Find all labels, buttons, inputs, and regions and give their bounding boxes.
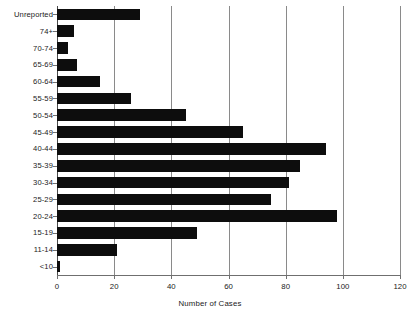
bar bbox=[57, 76, 100, 88]
bars bbox=[57, 6, 400, 275]
gridline bbox=[400, 6, 401, 275]
x-axis-tick bbox=[343, 275, 344, 279]
x-axis-tick-label: 0 bbox=[55, 282, 59, 291]
bar bbox=[57, 177, 289, 189]
y-axis-tick-label: 35-39 bbox=[0, 161, 53, 170]
y-axis-tick bbox=[53, 132, 57, 133]
y-axis-tick-label: 25-29 bbox=[0, 195, 53, 204]
y-axis-tick-label: 74+ bbox=[0, 27, 53, 36]
y-axis-tick-label: 20-24 bbox=[0, 212, 53, 221]
y-axis-tick-label: 15-19 bbox=[0, 228, 53, 237]
x-axis-tick bbox=[229, 275, 230, 279]
y-axis-tick bbox=[53, 14, 57, 15]
y-axis-tick bbox=[53, 149, 57, 150]
y-axis-tick-label: Unreported bbox=[0, 10, 53, 19]
y-axis-tick bbox=[53, 65, 57, 66]
x-axis-tick-label: 40 bbox=[167, 282, 176, 291]
y-axis-tick-label: 45-49 bbox=[0, 128, 53, 137]
x-axis-tick-label: 20 bbox=[110, 282, 119, 291]
bar bbox=[57, 261, 60, 273]
y-axis-tick-label: 11-14 bbox=[0, 245, 53, 254]
bar bbox=[57, 244, 117, 256]
x-axis-tick bbox=[171, 275, 172, 279]
x-axis-tick-label: 80 bbox=[281, 282, 290, 291]
x-axis-tick bbox=[114, 275, 115, 279]
bar bbox=[57, 109, 186, 121]
x-axis-tick bbox=[57, 275, 58, 279]
x-axis-tick-label: 120 bbox=[393, 282, 406, 291]
y-axis-tick-label: 40-44 bbox=[0, 144, 53, 153]
bar bbox=[57, 42, 68, 54]
y-axis-tick bbox=[53, 250, 57, 251]
y-axis-tick-label: 30-34 bbox=[0, 178, 53, 187]
y-axis-tick bbox=[53, 115, 57, 116]
y-axis-tick-label: <10 bbox=[0, 262, 53, 271]
x-axis-title: Number of Cases bbox=[0, 299, 420, 308]
y-axis-tick bbox=[53, 166, 57, 167]
x-axis-tick bbox=[286, 275, 287, 279]
bar bbox=[57, 9, 140, 21]
x-axis-tick-label: 60 bbox=[224, 282, 233, 291]
bar bbox=[57, 143, 326, 155]
x-axis-tick bbox=[400, 275, 401, 279]
y-axis-tick bbox=[53, 267, 57, 268]
bar-chart: Unreported74+70-7465-6960-6455-5950-5445… bbox=[0, 0, 420, 318]
bar bbox=[57, 59, 77, 71]
y-axis-tick bbox=[53, 216, 57, 217]
y-axis-tick bbox=[53, 199, 57, 200]
y-axis-tick-label: 50-54 bbox=[0, 111, 53, 120]
y-axis-tick bbox=[53, 82, 57, 83]
plot-area bbox=[57, 6, 400, 275]
x-axis-tick-label: 100 bbox=[336, 282, 349, 291]
bar bbox=[57, 210, 337, 222]
y-axis-category-labels: Unreported74+70-7465-6960-6455-5950-5445… bbox=[0, 6, 53, 275]
bar bbox=[57, 126, 243, 138]
bar bbox=[57, 194, 271, 206]
y-axis-tick bbox=[53, 183, 57, 184]
bar bbox=[57, 93, 131, 105]
y-axis-tick bbox=[53, 233, 57, 234]
y-axis-tick bbox=[53, 48, 57, 49]
y-axis-tick-label: 70-74 bbox=[0, 44, 53, 53]
y-axis-tick-label: 55-59 bbox=[0, 94, 53, 103]
bar bbox=[57, 160, 300, 172]
y-axis-tick bbox=[53, 98, 57, 99]
y-axis-tick-label: 60-64 bbox=[0, 77, 53, 86]
y-axis-tick bbox=[53, 31, 57, 32]
y-axis-tick-label: 65-69 bbox=[0, 60, 53, 69]
bar bbox=[57, 227, 197, 239]
bar bbox=[57, 25, 74, 37]
